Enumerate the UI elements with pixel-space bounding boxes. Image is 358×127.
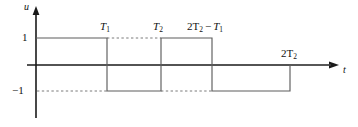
x-marker-2t2-sub: 2 xyxy=(293,52,297,61)
waveform-canvas xyxy=(0,0,358,127)
x-axis-label: t xyxy=(343,65,346,75)
x-marker-2t2mt1-sub: 2 xyxy=(199,25,203,34)
axis-group xyxy=(27,6,339,118)
x-marker-2t2mt1-base: 2T xyxy=(187,20,199,32)
x-marker-label-2t2: 2T2 xyxy=(281,48,297,59)
x-marker-label-2t2-minus-t1: 2T2−T1 xyxy=(187,21,223,32)
y-axis-arrow-icon xyxy=(33,6,40,15)
x-marker-label-t2: T2 xyxy=(153,21,163,32)
y-tick-label-negative-one: −1 xyxy=(12,85,24,96)
x-marker-label-t1: T1 xyxy=(100,21,110,32)
y-tick-label-positive-one: 1 xyxy=(22,32,28,43)
y-axis-label: u xyxy=(24,2,29,12)
x-marker-2t2-base: 2T xyxy=(281,47,293,59)
waveform-figure: u t 1 −1 T1 T2 2T2−T1 2T2 xyxy=(0,0,358,127)
x-marker-label-t1-sub: 1 xyxy=(106,25,110,34)
x-marker-label-t2-sub: 2 xyxy=(159,25,163,34)
x-marker-2t2mt1-minus-sign: − xyxy=(203,20,213,32)
x-marker-2t2mt1-tail-sub: 1 xyxy=(219,25,223,34)
